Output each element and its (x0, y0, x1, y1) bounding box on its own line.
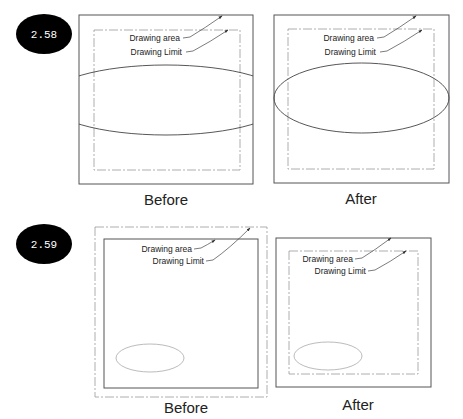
figure-badge: 2.58 (16, 14, 72, 54)
caption-before: Before (144, 191, 188, 208)
leader-line (194, 240, 215, 249)
caption-after: After (342, 396, 374, 413)
caption-before: Before (164, 399, 208, 416)
panel-before: Drawing area Drawing Limit Before (95, 227, 267, 416)
label-drawing-area: Drawing area (323, 33, 374, 43)
label-drawing-area: Drawing area (141, 244, 192, 254)
panel-before: Drawing area Drawing Limit Before (46, 15, 286, 208)
figure-badge: 2.59 (16, 224, 72, 264)
label-drawing-limit: Drawing Limit (325, 47, 377, 57)
ellipse-shape (274, 63, 449, 133)
leader-line (206, 228, 250, 261)
figure-number: 2.58 (31, 29, 57, 41)
panel-after: Drawing area Drawing Limit After (274, 15, 449, 207)
figure-2-58: 2.58 Drawing area Drawing Limit Before D… (16, 14, 449, 208)
leader-line (355, 238, 391, 259)
caption-after: After (345, 190, 377, 207)
label-drawing-limit: Drawing Limit (153, 256, 205, 266)
ellipse-shape (46, 65, 286, 135)
ellipse-shape (294, 342, 362, 370)
leader-line (183, 16, 222, 38)
label-drawing-area: Drawing area (129, 33, 180, 43)
figure-number: 2.59 (31, 239, 57, 251)
leader-line (186, 30, 228, 52)
figure-canvas: 2.58 Drawing area Drawing Limit Before D… (0, 0, 463, 419)
panel-after: Drawing area Drawing Limit After (276, 238, 431, 413)
ellipse-shape (116, 344, 184, 372)
label-drawing-limit: Drawing Limit (315, 266, 367, 276)
leader-line (380, 30, 422, 52)
drawing-area-rect (276, 238, 431, 387)
leader-line (377, 16, 416, 38)
leader-line (368, 251, 406, 271)
figure-2-59: 2.59 Drawing area Drawing Limit Before D… (16, 224, 431, 416)
label-drawing-limit: Drawing Limit (131, 47, 183, 57)
label-drawing-area: Drawing area (302, 254, 353, 264)
